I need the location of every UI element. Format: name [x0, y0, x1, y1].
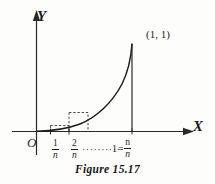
- point-label-one-one: (1, 1): [146, 29, 170, 40]
- fraction-numerator: n: [124, 138, 131, 148]
- fraction-numerator: 2: [71, 139, 78, 149]
- fraction-denominator: n: [52, 149, 59, 160]
- fraction-denominator: n: [124, 148, 131, 159]
- x-tick-label-one-equals-n-over-n: 1 = n n: [112, 138, 131, 159]
- x-tick-label-one-over-n: 1 n: [52, 139, 59, 160]
- figure-container: Y X O (1, 1) 1 n 2 n ··········· 1 = n n…: [0, 0, 215, 184]
- figure-plot-canvas: [0, 0, 215, 184]
- y-axis-label: Y: [37, 9, 46, 24]
- power-curve: [37, 44, 132, 131]
- end-label-value: 1: [112, 144, 117, 154]
- figure-caption: Figure 15.17: [0, 163, 215, 175]
- origin-label: O: [27, 136, 36, 149]
- end-label-fraction: n n: [124, 138, 131, 159]
- x-tick-label-two-over-n: 2 n: [71, 139, 78, 160]
- fraction-numerator: 1: [52, 139, 59, 149]
- end-label-equals: =: [118, 144, 124, 154]
- fraction-denominator: n: [71, 149, 78, 160]
- x-axis-label: X: [193, 119, 203, 134]
